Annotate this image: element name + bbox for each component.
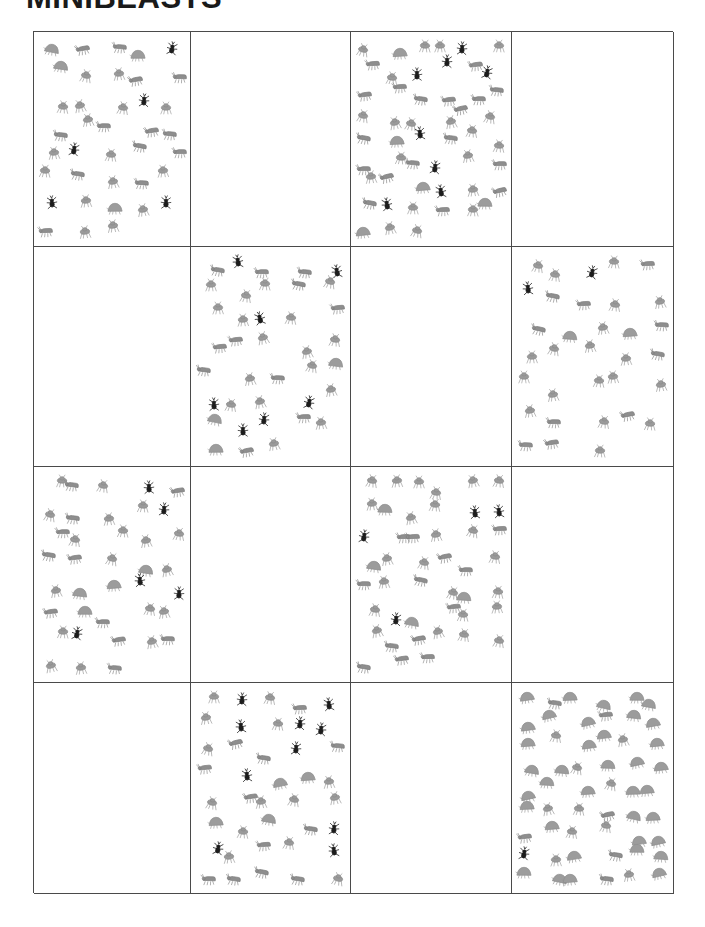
beetle-icon (382, 638, 400, 654)
ant-icon (363, 473, 381, 489)
beetle-icon (360, 195, 378, 212)
ant-icon (234, 824, 251, 839)
louse-icon (364, 558, 384, 573)
spider-icon (66, 142, 81, 159)
quadrat-cell-r3-c4-empty[interactable] (512, 467, 674, 683)
ant-icon (408, 223, 427, 240)
spider-icon (231, 253, 246, 270)
louse-icon (561, 872, 580, 886)
ant-icon (427, 527, 445, 543)
louse-icon (644, 715, 664, 731)
louse-icon (413, 180, 432, 194)
beetle-icon (301, 820, 319, 836)
beetle-icon (457, 562, 473, 576)
louse-icon (652, 848, 671, 862)
quadrat-cell-r2-c3-empty[interactable] (351, 247, 512, 467)
beetle-icon (54, 525, 70, 539)
beetle-icon (653, 317, 670, 332)
spider-icon (157, 502, 171, 518)
ant-icon (137, 532, 155, 548)
spider-icon (468, 505, 482, 521)
ant-icon (454, 607, 471, 622)
louse-icon (578, 784, 597, 798)
ant-icon (378, 551, 396, 567)
spider-icon (479, 65, 495, 82)
louse-icon (206, 815, 225, 829)
beetle-icon (168, 483, 186, 499)
ant-icon (491, 138, 508, 153)
beetle-icon (208, 262, 226, 279)
beetle-icon (445, 600, 462, 615)
beetle-icon (41, 604, 59, 620)
louse-icon (627, 843, 645, 856)
ant-icon (329, 870, 348, 887)
quadrat-cell-r3-c2-empty[interactable] (191, 467, 351, 683)
beetle-icon (545, 415, 562, 430)
beetle-icon (288, 276, 306, 293)
beetle-icon (543, 288, 561, 305)
ant-icon (581, 338, 598, 354)
ant-icon (40, 506, 58, 523)
ant-icon (405, 201, 421, 215)
ant-icon (606, 297, 624, 313)
ant-icon (490, 633, 508, 649)
louse-icon (388, 134, 407, 148)
quadrat-cell-r4-c2-populated[interactable] (191, 683, 351, 894)
quadrat-cell-r1-c1-populated[interactable] (34, 32, 191, 247)
beetle-icon (227, 333, 244, 348)
ant-icon (55, 625, 72, 640)
quadrat-cell-r2-c2-populated[interactable] (191, 247, 351, 467)
spider-icon (289, 741, 303, 757)
beetle-icon (295, 410, 311, 424)
quadrat-cell-r4-c4-populated[interactable] (512, 683, 674, 894)
louse-icon (629, 833, 648, 848)
ant-icon (426, 497, 443, 512)
spider-icon (142, 480, 156, 496)
spider-icon (584, 265, 600, 282)
quadrat-cell-r1-c2-empty[interactable] (191, 32, 351, 247)
ant-icon (489, 600, 506, 615)
beetle-icon (410, 571, 429, 588)
quadrat-cell-r2-c4-populated[interactable] (512, 247, 674, 467)
spider-icon (236, 423, 249, 438)
ant-icon (411, 475, 427, 489)
ant-icon (222, 397, 240, 413)
ant-icon (141, 601, 159, 617)
louse-icon (594, 728, 614, 743)
louse-icon (204, 411, 224, 427)
louse-icon (259, 811, 279, 827)
minibeast-sample-grid (33, 31, 673, 893)
ant-icon (487, 549, 504, 565)
ant-icon (77, 193, 94, 208)
beetle-icon (251, 864, 269, 881)
beetle-icon (109, 632, 127, 648)
quadrat-cell-r4-c1-empty[interactable] (34, 683, 191, 894)
beetle-icon (295, 264, 312, 280)
ant-icon (529, 257, 547, 273)
ant-icon (415, 555, 433, 572)
quadrat-cell-r3-c1-populated[interactable] (34, 467, 191, 683)
ant-icon (143, 634, 161, 651)
quadrat-cell-r2-c1-empty[interactable] (34, 247, 191, 467)
spider-icon (520, 281, 535, 297)
louse-icon (624, 785, 642, 798)
louse-icon (129, 49, 147, 62)
beetle-icon (490, 182, 509, 199)
beetle-icon (200, 872, 216, 887)
louse-icon (579, 737, 599, 752)
louse-icon (644, 810, 663, 824)
ant-icon (242, 371, 260, 387)
beetle-icon (254, 749, 272, 765)
quadrat-cell-r4-c3-empty[interactable] (351, 683, 512, 894)
louse-icon (515, 865, 533, 878)
ant-icon (464, 522, 483, 539)
quadrat-cell-r1-c4-empty[interactable] (512, 32, 674, 247)
ant-icon (322, 382, 340, 398)
ant-icon (71, 97, 89, 114)
quadrat-cell-r3-c3-populated[interactable] (351, 467, 512, 683)
louse-icon (625, 708, 644, 723)
quadrat-cell-r1-c3-populated[interactable] (351, 32, 512, 247)
beast-field (195, 251, 346, 462)
beetle-icon (529, 320, 548, 337)
beetle-icon (195, 760, 212, 775)
